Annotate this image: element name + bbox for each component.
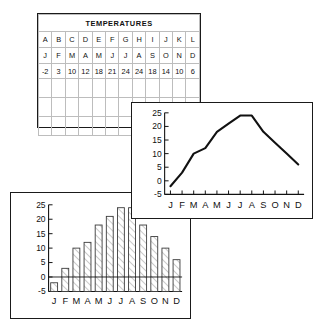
month-cell-5[interactable]: J — [106, 48, 119, 64]
empty-cell[interactable] — [92, 98, 105, 117]
month-cell-6[interactable]: J — [119, 48, 132, 64]
empty-cell[interactable] — [92, 79, 105, 98]
empty-cell[interactable] — [132, 79, 145, 98]
value-cell-1[interactable]: 3 — [52, 64, 65, 79]
column-letter-cell-4[interactable]: E — [92, 32, 105, 48]
table-row: JFMAMJJASOND — [39, 48, 200, 64]
column-letter-cell-5[interactable]: F — [106, 32, 119, 48]
bar-N[interactable] — [162, 248, 169, 291]
line-chart-panel: -50510152025JFMAMJJASOND — [131, 102, 313, 219]
month-cell-11[interactable]: D — [186, 48, 200, 64]
bar-S[interactable] — [140, 225, 147, 291]
y-tick-label: 5 — [41, 258, 46, 268]
empty-cell[interactable] — [106, 117, 119, 136]
bar-J[interactable] — [51, 283, 58, 292]
empty-cell[interactable] — [52, 79, 65, 98]
value-cell-8[interactable]: 18 — [146, 64, 159, 79]
x-tick-label: M — [190, 200, 198, 210]
month-cell-10[interactable]: N — [173, 48, 186, 64]
empty-cell[interactable] — [39, 98, 52, 117]
x-tick-label: F — [62, 296, 68, 306]
x-tick-label: M — [213, 200, 221, 210]
table-row: ABCDEFGHIJKL — [39, 32, 200, 48]
y-tick-label: 5 — [157, 162, 162, 172]
empty-cell[interactable] — [173, 79, 186, 98]
column-letter-cell-8[interactable]: I — [146, 32, 159, 48]
bar-A[interactable] — [129, 208, 136, 292]
bar-D[interactable] — [173, 260, 180, 292]
x-tick-label: N — [283, 200, 290, 210]
month-cell-9[interactable]: O — [159, 48, 172, 64]
y-tick-label: -5 — [38, 286, 46, 296]
y-tick-label: 25 — [152, 108, 162, 118]
y-tick-label: 20 — [152, 121, 162, 131]
value-cell-5[interactable]: 21 — [106, 64, 119, 79]
empty-cell[interactable] — [65, 117, 78, 136]
table-row-empty — [39, 79, 200, 98]
empty-cell[interactable] — [79, 98, 92, 117]
y-tick-label: 10 — [152, 149, 162, 159]
value-cell-2[interactable]: 10 — [65, 64, 78, 79]
month-cell-8[interactable]: S — [146, 48, 159, 64]
bar-J[interactable] — [106, 216, 113, 291]
x-tick-label: S — [140, 296, 146, 306]
x-tick-label: D — [295, 200, 302, 210]
empty-cell[interactable] — [159, 79, 172, 98]
x-tick-label: N — [162, 296, 169, 306]
y-tick-label: -5 — [154, 189, 162, 199]
table-row: -231012182124241814106 — [39, 64, 200, 79]
empty-cell[interactable] — [79, 117, 92, 136]
line-series — [170, 116, 298, 187]
value-cell-9[interactable]: 14 — [159, 64, 172, 79]
empty-cell[interactable] — [52, 98, 65, 117]
x-tick-label: A — [202, 200, 209, 210]
value-cell-6[interactable]: 24 — [119, 64, 132, 79]
month-cell-0[interactable]: J — [39, 48, 52, 64]
value-cell-4[interactable]: 18 — [92, 64, 105, 79]
empty-cell[interactable] — [106, 79, 119, 98]
column-letter-cell-1[interactable]: B — [52, 32, 65, 48]
value-cell-10[interactable]: 10 — [173, 64, 186, 79]
bar-F[interactable] — [62, 268, 69, 291]
x-tick-label: A — [84, 296, 91, 306]
bar-A[interactable] — [84, 242, 91, 291]
value-cell-7[interactable]: 24 — [132, 64, 145, 79]
month-cell-2[interactable]: M — [65, 48, 78, 64]
value-cell-11[interactable]: 6 — [186, 64, 200, 79]
bar-M[interactable] — [95, 225, 102, 291]
x-tick-label: A — [249, 200, 256, 210]
value-cell-3[interactable]: 12 — [79, 64, 92, 79]
column-letter-cell-2[interactable]: C — [65, 32, 78, 48]
empty-cell[interactable] — [65, 79, 78, 98]
column-letter-cell-0[interactable]: A — [39, 32, 52, 48]
empty-cell[interactable] — [39, 79, 52, 98]
y-tick-label: 15 — [152, 135, 162, 145]
x-tick-label: O — [271, 200, 278, 210]
bar-J[interactable] — [117, 208, 124, 292]
month-cell-1[interactable]: F — [52, 48, 65, 64]
column-letter-cell-9[interactable]: J — [159, 32, 172, 48]
empty-cell[interactable] — [106, 98, 119, 117]
empty-cell[interactable] — [119, 79, 132, 98]
empty-cell[interactable] — [52, 117, 65, 136]
column-letter-cell-6[interactable]: G — [119, 32, 132, 48]
empty-cell[interactable] — [92, 117, 105, 136]
value-cell-0[interactable]: -2 — [39, 64, 52, 79]
x-tick-label: M — [95, 296, 103, 306]
column-letter-cell-7[interactable]: H — [132, 32, 145, 48]
month-cell-7[interactable]: A — [132, 48, 145, 64]
bar-O[interactable] — [151, 237, 158, 292]
empty-cell[interactable] — [186, 79, 200, 98]
empty-cell[interactable] — [79, 79, 92, 98]
bar-M[interactable] — [73, 248, 80, 291]
column-letter-cell-3[interactable]: D — [79, 32, 92, 48]
empty-cell[interactable] — [65, 98, 78, 117]
column-letter-cell-11[interactable]: L — [186, 32, 200, 48]
empty-cell[interactable] — [146, 79, 159, 98]
month-cell-3[interactable]: A — [79, 48, 92, 64]
x-tick-label: J — [238, 200, 243, 210]
y-tick-label: 25 — [36, 200, 46, 210]
empty-cell[interactable] — [39, 117, 52, 136]
month-cell-4[interactable]: M — [92, 48, 105, 64]
column-letter-cell-10[interactable]: K — [173, 32, 186, 48]
